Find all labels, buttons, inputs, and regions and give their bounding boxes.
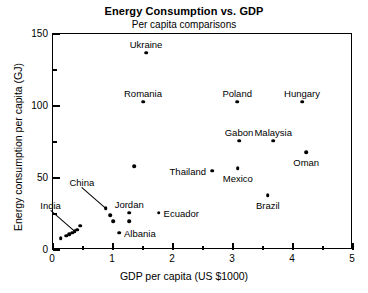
x-tick-label: 2 — [169, 253, 175, 264]
point-label-india: India — [40, 201, 61, 211]
x-tick-label: 3 — [229, 253, 235, 264]
scatter-chart: Energy Consumption vs. GDP Per capita co… — [0, 0, 368, 293]
point-label-hungary: Hungary — [284, 89, 320, 99]
point-label-mexico: Mexico — [223, 174, 253, 184]
chart-subtitle: Per capita comparisons — [0, 19, 368, 30]
y-tick-label: 100 — [26, 100, 48, 111]
data-point — [132, 165, 136, 169]
x-tick — [232, 243, 233, 250]
x-tick-label: 0 — [49, 253, 55, 264]
x-tick — [112, 243, 113, 250]
data-point-ecuador — [157, 211, 161, 215]
chart-title: Energy Consumption vs. GDP — [0, 5, 368, 17]
label-leader-line — [81, 187, 106, 209]
data-point — [75, 228, 79, 232]
plot-area: UkraineRomaniaPolandHungaryGabonMalaysia… — [52, 33, 352, 249]
point-label-jordan: Jordan — [115, 200, 144, 210]
x-tick — [292, 243, 293, 250]
x-tick — [262, 246, 263, 250]
point-label-malaysia: Malaysia — [254, 128, 292, 138]
x-tick — [352, 243, 353, 250]
x-tick-label: 5 — [349, 253, 355, 264]
y-tick — [53, 177, 60, 178]
y-tick-label: 50 — [26, 172, 48, 183]
y-tick — [53, 141, 57, 142]
x-axis-title: GDP per capita (US $1000) — [0, 270, 368, 282]
data-point-brazil — [266, 193, 270, 197]
point-label-ukraine: Ukraine — [130, 40, 163, 50]
data-point-albania — [117, 231, 121, 235]
y-tick-label: 0 — [26, 244, 48, 255]
y-tick — [53, 33, 60, 34]
data-point-mexico — [236, 166, 240, 170]
data-point-hungary — [300, 100, 304, 104]
x-tick-label: 1 — [109, 253, 115, 264]
x-tick — [322, 246, 323, 250]
x-tick-label: 4 — [289, 253, 295, 264]
y-tick-label: 150 — [26, 28, 48, 39]
point-label-ecuador: Ecuador — [164, 209, 199, 219]
data-point — [78, 224, 82, 228]
data-point-gabon — [237, 139, 241, 143]
data-point-ukraine — [144, 51, 148, 55]
point-label-albania: Albania — [124, 229, 156, 239]
data-point — [111, 219, 115, 223]
point-label-china: China — [69, 178, 94, 188]
x-tick — [82, 246, 83, 250]
point-label-brazil: Brazil — [256, 201, 280, 211]
data-point — [64, 234, 68, 238]
x-tick — [142, 246, 143, 250]
data-point-romania — [141, 100, 145, 104]
data-point-poland — [235, 100, 239, 104]
data-point-malaysia — [271, 139, 275, 143]
point-label-thailand: Thailand — [170, 167, 206, 177]
data-point-jordan — [127, 211, 131, 215]
point-label-romania: Romania — [124, 89, 162, 99]
data-point — [127, 219, 131, 223]
data-point — [108, 214, 112, 218]
label-leader-line — [50, 210, 75, 232]
y-tick — [53, 249, 60, 250]
point-label-gabon: Gabon — [225, 128, 254, 138]
x-tick — [172, 243, 173, 250]
y-axis-title: Energy consumption per capita (GJ) — [12, 37, 24, 257]
y-tick — [53, 69, 57, 70]
data-point-thailand — [210, 169, 214, 173]
y-tick — [53, 105, 60, 106]
x-tick — [202, 246, 203, 250]
data-point-oman — [304, 150, 308, 154]
data-point — [59, 237, 63, 241]
point-label-poland: Poland — [222, 89, 252, 99]
point-label-oman: Oman — [293, 158, 319, 168]
